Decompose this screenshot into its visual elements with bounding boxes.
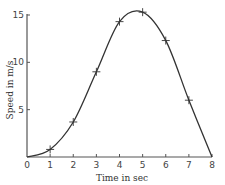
plus-marker [139,8,147,16]
plus-marker [162,37,170,45]
x-tick-label: 0 [24,160,30,170]
speed-time-chart: 01234567851015 Time in sec Speed in m/s [0,0,225,185]
x-tick-label: 6 [163,160,169,170]
plus-marker [92,68,100,76]
x-tick-label: 4 [117,160,123,170]
x-tick-label: 5 [140,160,146,170]
plus-marker [69,118,77,126]
x-axis-title: Time in sec [96,173,148,183]
y-tick-label: 15 [13,10,24,20]
y-axis-title: Speed in m/s [5,60,15,119]
x-tick-label: 7 [186,160,192,170]
y-tick-label: 5 [18,105,24,115]
x-tick-label: 8 [209,160,215,170]
plot-area [27,8,212,157]
x-tick-label: 1 [47,160,53,170]
x-tick-label: 3 [94,160,100,170]
x-tick-label: 2 [70,160,76,170]
plus-marker [185,96,193,104]
speed-curve [27,11,212,157]
